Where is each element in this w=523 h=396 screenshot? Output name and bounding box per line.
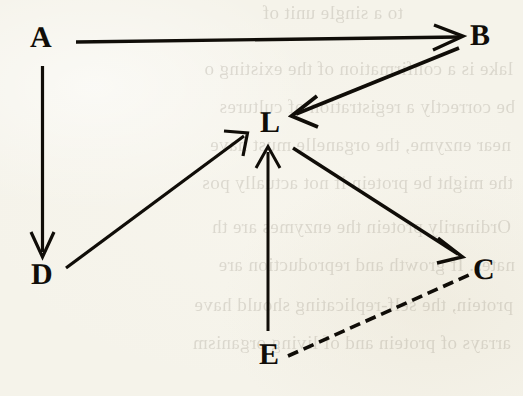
- edge-b-to-l: [292, 48, 460, 127]
- node-label-b: B: [470, 21, 490, 51]
- edge-d-to-l: [66, 131, 248, 268]
- graph-edges: [0, 0, 523, 396]
- edge-l-to-c: [293, 148, 463, 263]
- edge-a-to-b: [76, 25, 463, 50]
- node-label-l: L: [260, 108, 280, 138]
- node-label-e: E: [259, 340, 279, 370]
- edge-e-to-c: [288, 274, 471, 356]
- edge-a-to-d: [31, 66, 54, 257]
- node-label-a: A: [30, 23, 52, 53]
- node-label-d: D: [31, 260, 53, 290]
- edge-e-to-l: [256, 147, 280, 332]
- diagram-page: to a single unit of lake is a confirmati…: [0, 0, 523, 396]
- node-label-c: C: [473, 255, 495, 285]
